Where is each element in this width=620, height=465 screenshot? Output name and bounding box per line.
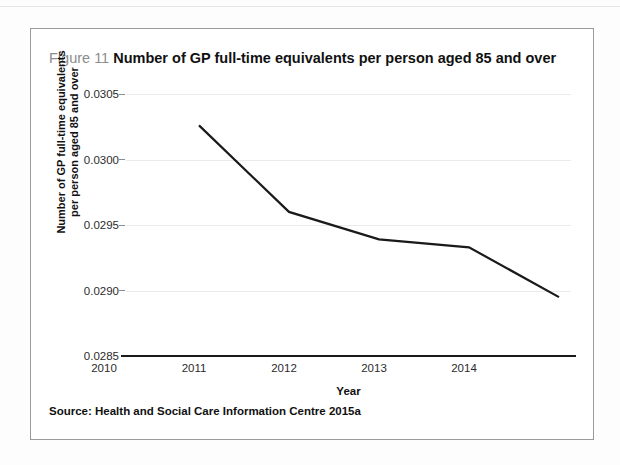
page-background: Figure 11 Number of GP full-time equival… xyxy=(0,0,620,465)
y-tick-label: 0.0300 xyxy=(59,154,119,166)
y-tick-mark xyxy=(119,290,125,291)
x-tick-label: 2011 xyxy=(159,362,229,374)
y-tick-mark xyxy=(119,225,125,226)
y-tick-label: 0.0285 xyxy=(59,350,119,362)
y-tick-label: 0.0290 xyxy=(59,285,119,297)
series-line xyxy=(126,94,571,356)
x-axis-title: Year xyxy=(126,385,571,397)
x-tick-label: 2013 xyxy=(339,362,409,374)
y-tick-mark xyxy=(119,159,125,160)
x-tick-label: 2012 xyxy=(249,362,319,374)
y-tick-label: 0.0305 xyxy=(59,88,119,100)
plot-area xyxy=(126,94,571,356)
x-axis-line xyxy=(121,355,576,357)
x-tick-label: 2010 xyxy=(69,362,139,374)
source-note: Source: Health and Social Care Informati… xyxy=(49,405,361,417)
y-tick-mark xyxy=(119,94,125,95)
page-top-rule xyxy=(0,6,620,7)
line-chart: Number of GP full-time equivalents per p… xyxy=(31,29,595,441)
x-tick-label: 2014 xyxy=(429,362,499,374)
y-axis-tick-labels: 0.0285 0.0290 0.0295 0.0300 0.0305 xyxy=(51,94,119,356)
y-tick-label: 0.0295 xyxy=(59,219,119,231)
figure-container: Figure 11 Number of GP full-time equival… xyxy=(30,28,594,440)
